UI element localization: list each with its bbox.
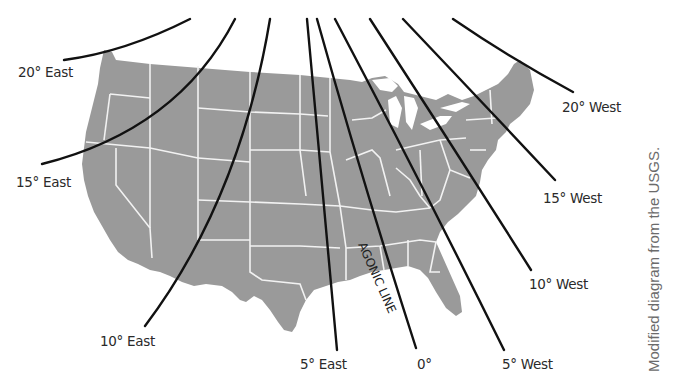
label-15-west: 15° West: [543, 190, 602, 206]
source-credit: Modified diagram from the USGS.: [645, 147, 662, 372]
label-10-east: 10° East: [100, 333, 155, 349]
label-15-east: 15° East: [16, 174, 71, 190]
label-20-east: 20° East: [18, 64, 73, 80]
label-5-east: 5° East: [300, 356, 347, 372]
label-20-west: 20° West: [562, 99, 621, 115]
isogonic-line-20-east: [64, 19, 190, 60]
label-5-west: 5° West: [502, 356, 553, 372]
label-10-west: 10° West: [529, 276, 588, 292]
declination-diagram: 20° East 15° East 10° East 5° East 0° 5°…: [0, 0, 673, 391]
label-0: 0°: [417, 356, 432, 372]
